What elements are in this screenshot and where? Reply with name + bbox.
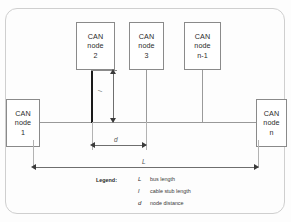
can-node-3-line2: node: [138, 41, 154, 51]
legend-text-cable-stub-length: cable stub length: [150, 188, 191, 194]
stub-dimension-line: [113, 71, 114, 122]
legend-rows: L bus length l cable stub length d node …: [138, 176, 191, 212]
node-distance-arrow-right: [142, 142, 147, 148]
can-node-3-line3: 3: [144, 51, 148, 61]
bus-length-arrow-left: [31, 164, 36, 170]
legend-symbol-bus-length: L: [138, 176, 150, 182]
legend-symbol-node-distance: d: [138, 200, 150, 206]
bus-length-label: L: [142, 158, 146, 165]
can-node-2-line1: CAN: [88, 32, 103, 42]
can-node-n-minus-1-box: CAN node n-1: [184, 22, 221, 70]
can-node-3-box: CAN node 3: [129, 22, 164, 70]
stub-dimension-arrow-down: [110, 118, 116, 123]
can-node-1-line2: node: [15, 118, 31, 128]
stub-line-node-n-1: [202, 70, 203, 122]
can-node-n-line1: CAN: [264, 109, 279, 119]
can-node-n-minus-1-line3: n-1: [197, 51, 208, 61]
legend-title: Legend:: [96, 177, 117, 183]
legend-item-node-distance: d node distance: [138, 200, 191, 212]
stub-line-node-3: [146, 70, 147, 122]
can-node-1-line1: CAN: [15, 109, 30, 119]
legend-item-cable-stub-length: l cable stub length: [138, 188, 191, 200]
stub-line-node-2: [91, 70, 93, 123]
legend-text-bus-length: bus length: [150, 176, 175, 182]
node-distance-arrow-left: [90, 142, 95, 148]
legend-item-bus-length: L bus length: [138, 176, 191, 188]
legend-text-node-distance: node distance: [150, 200, 184, 206]
can-node-2-line3: 2: [93, 51, 97, 61]
node-distance-label: d: [114, 136, 118, 143]
legend-symbol-cable-stub-length: l: [138, 188, 150, 194]
bus-length-line: [33, 167, 258, 168]
can-node-3-line1: CAN: [139, 32, 154, 42]
diagram-canvas: CAN node 2 CAN node 3 CAN node n-1 CAN n…: [0, 0, 291, 222]
can-node-n-line3: n: [269, 128, 273, 138]
can-node-2-box: CAN node 2: [76, 22, 115, 70]
can-node-2-line2: node: [87, 41, 103, 51]
can-node-n-minus-1-line2: node: [194, 41, 210, 51]
can-node-1-box: CAN node 1: [6, 99, 40, 147]
stub-length-label: l: [97, 90, 103, 91]
node-distance-line: [92, 145, 146, 146]
bus-length-arrow-right: [254, 164, 259, 170]
stub-dimension-arrow-up: [110, 69, 116, 74]
can-node-n-minus-1-line1: CAN: [195, 32, 210, 42]
can-node-n-line2: node: [263, 118, 279, 128]
can-node-1-line3: 1: [21, 128, 25, 138]
can-node-n-box: CAN node n: [256, 99, 287, 147]
